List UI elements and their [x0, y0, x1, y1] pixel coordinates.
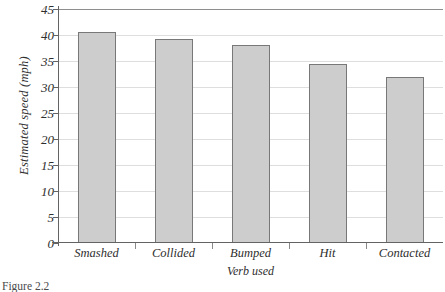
y-axis-line [58, 6, 59, 246]
y-axis-tick-mark [53, 217, 58, 218]
x-axis-tick-label: Hit [320, 247, 336, 261]
y-axis-tick-mark [53, 191, 58, 192]
plot-top-frame [58, 9, 443, 10]
x-axis-tick-label: Smashed [74, 247, 118, 261]
gridline [58, 35, 443, 36]
y-axis-tick-label: 5 [18, 211, 54, 224]
y-axis-tick-label: 30 [18, 81, 54, 94]
x-axis-tick-label-group: SmashedCollidedBumpedHitContacted [58, 247, 443, 265]
y-axis-tick-label: 15 [18, 159, 54, 172]
y-axis-tick-mark [53, 9, 58, 10]
x-axis-tick-label: Contacted [379, 247, 430, 261]
y-axis-tick-mark [53, 243, 58, 244]
bar [78, 32, 116, 243]
y-axis-tick-mark [53, 61, 58, 62]
x-axis-tick-label: Collided [152, 247, 195, 261]
y-axis-tick-label: 40 [18, 29, 54, 42]
y-axis-tick-label: 20 [18, 133, 54, 146]
figure-caption: Figure 2.2 [2, 280, 49, 292]
plot-area [58, 9, 443, 243]
y-axis-tick-mark [53, 139, 58, 140]
bar [386, 77, 424, 243]
x-axis-tick-label: Bumped [230, 247, 271, 261]
y-axis-tick-label: 25 [18, 107, 54, 120]
y-axis-tick-mark [53, 113, 58, 114]
y-axis-tick-mark [53, 165, 58, 166]
y-axis-tick-label: 35 [18, 55, 54, 68]
y-axis-tick-label: 10 [18, 185, 54, 198]
bar [155, 39, 193, 243]
x-axis-line [52, 242, 443, 243]
y-axis-tick-mark [53, 87, 58, 88]
y-axis-tick-label: 45 [18, 3, 54, 16]
y-axis-tick-mark [53, 35, 58, 36]
bar [309, 64, 347, 243]
bar [232, 45, 270, 243]
y-axis-tick-label: 0 [18, 237, 54, 250]
x-axis-title: Verb used [58, 264, 443, 279]
y-axis-tick-label-group: 051015202530354045 [18, 0, 54, 243]
